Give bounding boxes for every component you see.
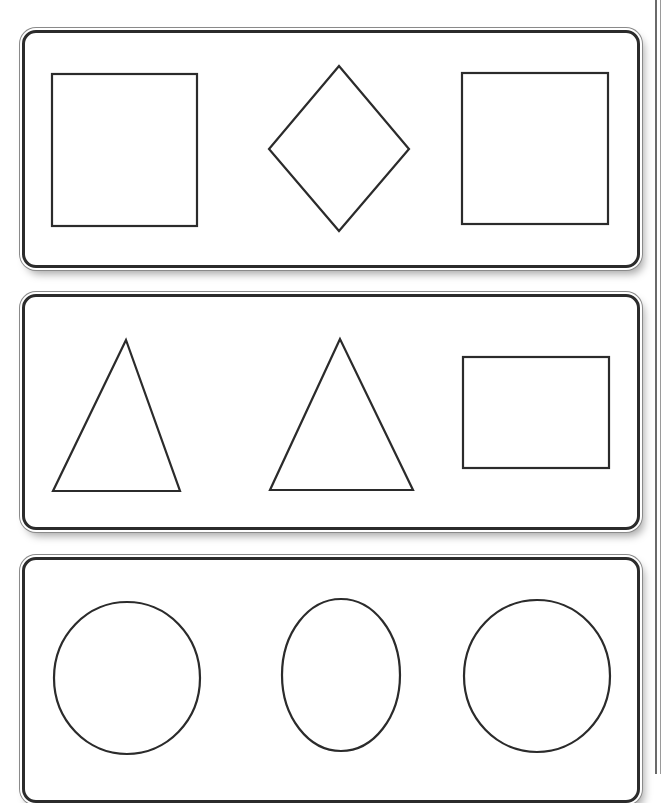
triangle-shape (270, 339, 413, 490)
circle-shape (464, 600, 610, 752)
circle-shape (54, 602, 200, 754)
diamond-shape (269, 66, 409, 231)
triangle-shape (53, 340, 180, 491)
square-shape (52, 74, 197, 226)
oval-shape (282, 599, 400, 751)
square-shape (462, 73, 608, 224)
rectangle-shape (463, 357, 609, 468)
